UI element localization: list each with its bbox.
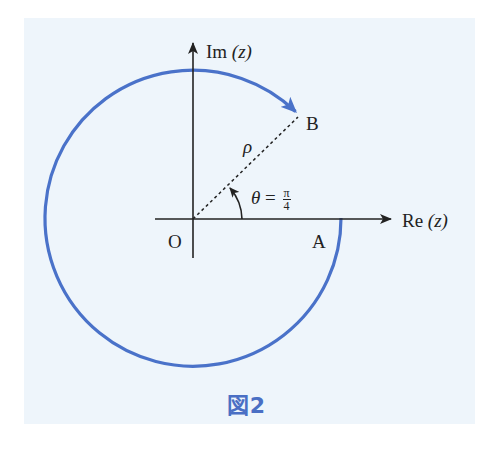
- point-o-label: O: [168, 232, 182, 251]
- angle-fraction: π 4: [283, 187, 291, 212]
- angle-label: θ = π 4: [251, 187, 291, 212]
- radius-symbol: ρ: [243, 136, 252, 157]
- point-b-label: B: [306, 114, 319, 133]
- figure-caption: 図2: [0, 387, 493, 419]
- theta-symbol: θ: [251, 187, 260, 208]
- imaginary-axis-prefix: Im: [206, 41, 227, 62]
- real-axis-var: (z): [428, 210, 448, 231]
- imaginary-axis-label: Im (z): [206, 42, 252, 61]
- imaginary-axis-var: (z): [232, 41, 252, 62]
- real-axis-prefix: Re: [402, 210, 423, 231]
- angle-arc: [230, 188, 242, 219]
- fraction-denominator: 4: [283, 200, 291, 212]
- equals-sign: =: [265, 187, 276, 208]
- radius-label: ρ: [243, 137, 252, 156]
- point-a-label: A: [312, 232, 326, 251]
- real-axis-label: Re (z): [402, 211, 448, 230]
